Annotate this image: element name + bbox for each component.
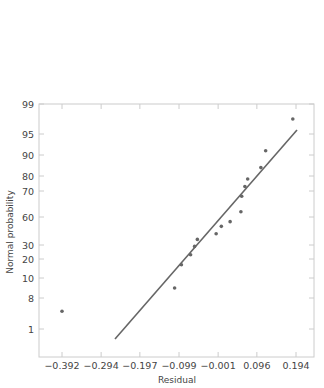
- x-tick-label: 0.194: [282, 360, 309, 371]
- x-tick-label: −0.001: [201, 360, 236, 371]
- plot-border: [39, 104, 314, 357]
- y-tick-label: 30: [22, 240, 34, 251]
- data-point: [189, 253, 193, 257]
- x-tick-label: −0.197: [122, 360, 157, 371]
- y-axis-label: Normal probability: [5, 190, 15, 274]
- data-point: [259, 166, 263, 170]
- data-point: [291, 117, 295, 121]
- x-axis: −0.392−0.294−0.197−0.099−0.0010.0960.194: [44, 104, 309, 371]
- data-point: [239, 210, 243, 214]
- y-tick-label: 8: [28, 293, 34, 304]
- data-point: [240, 194, 244, 198]
- y-tick-label: 1: [28, 324, 34, 335]
- plot-frame: [39, 104, 314, 357]
- y-tick-label: 90: [22, 150, 34, 161]
- y-tick-label: 80: [22, 171, 34, 182]
- data-point: [220, 225, 224, 229]
- data-points: [60, 117, 294, 313]
- data-point: [193, 245, 197, 249]
- data-point: [228, 220, 232, 224]
- data-point: [264, 149, 268, 153]
- x-tick-label: 0.096: [243, 360, 270, 371]
- y-tick-label: 99: [22, 99, 34, 110]
- data-point: [180, 263, 184, 267]
- normal-probability-plot: 99959080706030201081 −0.392−0.294−0.197−…: [0, 0, 324, 388]
- data-point: [60, 309, 64, 313]
- data-point: [196, 238, 200, 242]
- x-tick-label: −0.294: [84, 360, 119, 371]
- data-point: [243, 185, 247, 189]
- y-tick-label: 95: [22, 129, 34, 140]
- x-tick-label: −0.099: [161, 360, 196, 371]
- y-axis: 99959080706030201081: [22, 99, 314, 335]
- y-tick-label: 20: [22, 254, 34, 265]
- x-tick-label: −0.392: [44, 360, 79, 371]
- data-point: [173, 286, 177, 290]
- fit-line: [115, 130, 297, 339]
- data-point: [214, 232, 218, 236]
- y-tick-label: 70: [22, 186, 34, 197]
- reference-line: [115, 130, 297, 339]
- y-tick-label: 60: [22, 212, 34, 223]
- y-tick-label: 10: [22, 273, 34, 284]
- data-point: [246, 177, 250, 181]
- x-axis-label: Residual: [158, 375, 196, 385]
